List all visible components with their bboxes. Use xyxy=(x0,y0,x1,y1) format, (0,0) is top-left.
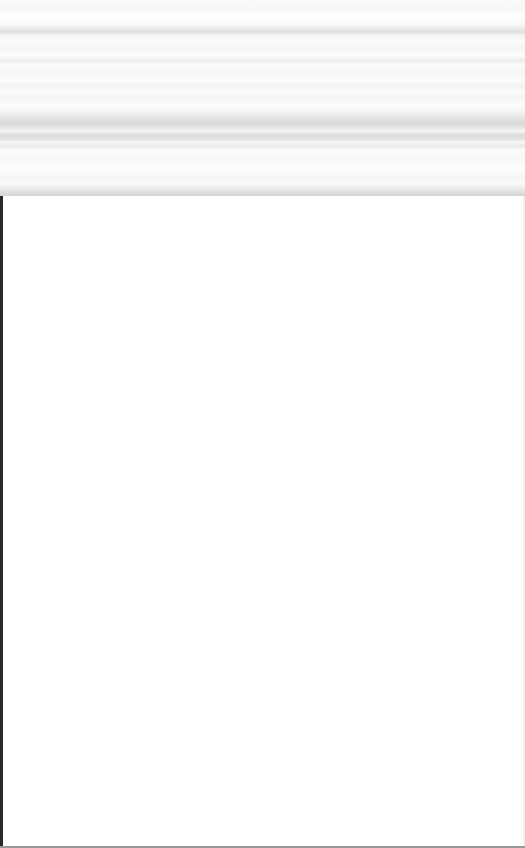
blurred-header-band xyxy=(0,0,525,196)
blank-content-area xyxy=(0,196,525,848)
